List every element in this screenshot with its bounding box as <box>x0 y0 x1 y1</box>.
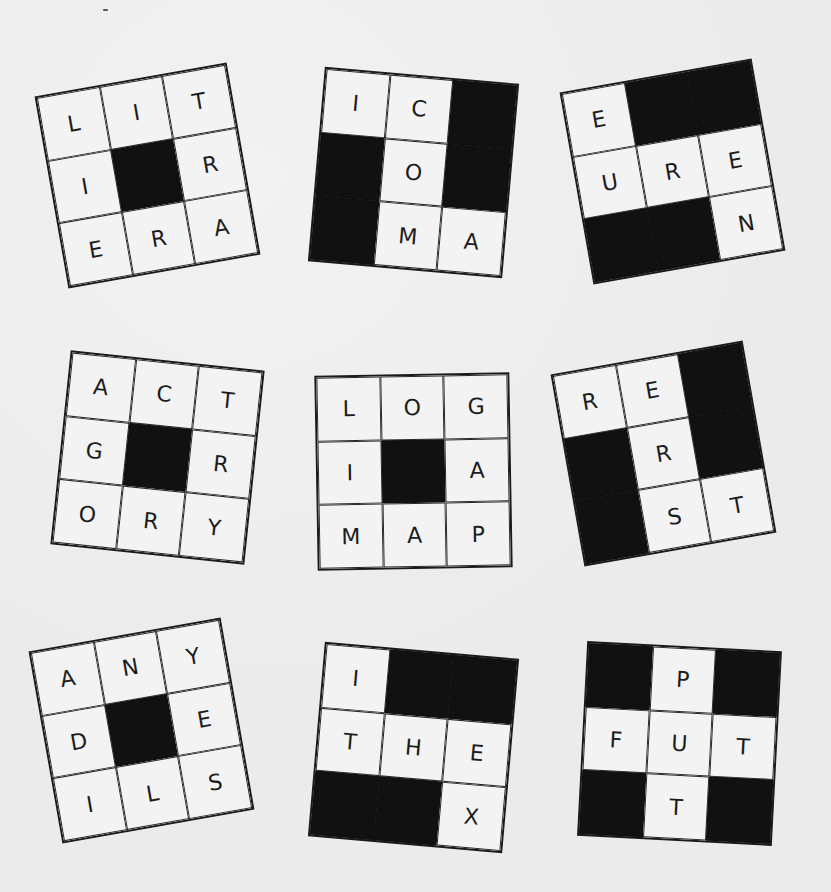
letter-cell: G <box>444 374 509 439</box>
letter-cell: L <box>316 377 381 442</box>
letter-cell: Y <box>179 492 249 562</box>
letter-cell: A <box>184 190 258 264</box>
letter-cell: I <box>321 69 390 138</box>
word-grid-7: ANYDEILS <box>29 618 255 844</box>
letter-cell: S <box>178 745 252 819</box>
letter-cell: A <box>437 207 506 276</box>
letter-cell: A <box>382 503 447 568</box>
letter-cell: R <box>636 135 710 209</box>
letter-cell: A <box>445 438 510 503</box>
letter-cell: H <box>379 713 448 782</box>
word-grid-9: PFUTT <box>577 641 782 846</box>
blocked-cell <box>448 80 517 149</box>
letter-cell: T <box>192 366 262 436</box>
blocked-cell <box>123 423 193 493</box>
blocked-cell <box>625 72 699 146</box>
word-grid-4: ACTGRORY <box>50 350 264 564</box>
letter-cell: O <box>379 138 448 207</box>
word-grid-8: ITHEX <box>308 642 519 853</box>
blocked-cell <box>586 643 653 710</box>
blocked-cell <box>310 771 379 840</box>
blocked-cell <box>385 650 454 719</box>
letter-cell: X <box>437 782 506 851</box>
letter-cell: T <box>162 65 236 139</box>
letter-cell: R <box>186 429 256 499</box>
blocked-cell <box>564 428 638 502</box>
letter-cell: A <box>31 642 105 716</box>
letter-cell: E <box>59 212 133 286</box>
letter-cell: C <box>385 75 454 144</box>
letter-cell: T <box>643 774 710 841</box>
blocked-cell <box>579 770 646 837</box>
blocked-cell <box>442 144 511 213</box>
blocked-cell <box>689 406 763 480</box>
letter-cell: E <box>616 354 690 428</box>
blocked-cell <box>706 777 773 844</box>
letter-cell: R <box>627 417 701 491</box>
blocked-cell <box>448 655 517 724</box>
letter-cell: T <box>710 713 777 780</box>
blocked-cell <box>584 208 658 282</box>
letter-cell: L <box>37 87 111 161</box>
letter-cell: A <box>66 353 136 423</box>
word-grid-2: ICOMA <box>308 67 519 278</box>
blocked-cell <box>647 197 721 271</box>
letter-cell: D <box>42 705 116 779</box>
letter-cell: R <box>553 365 627 439</box>
letter-cell: I <box>48 150 122 224</box>
puzzle-page: LITIRERA ICOMA EUREN ACTGRORY LOGIAMAP R… <box>0 0 831 892</box>
letter-cell: G <box>59 416 129 486</box>
letter-cell: R <box>116 486 186 556</box>
letter-cell: E <box>698 124 772 198</box>
blocked-cell <box>713 650 780 717</box>
blocked-cell <box>687 61 761 135</box>
letter-cell: E <box>442 719 511 788</box>
letter-cell: O <box>53 479 123 549</box>
letter-cell: R <box>122 201 196 275</box>
word-grid-1: LITIRERA <box>35 63 261 289</box>
blocked-cell <box>105 694 179 768</box>
letter-cell: P <box>446 502 511 567</box>
blocked-cell <box>381 439 446 504</box>
letter-cell: U <box>646 710 713 777</box>
print-speck <box>103 9 108 11</box>
letter-cell: Y <box>156 620 230 694</box>
letter-cell: I <box>317 440 382 505</box>
letter-cell: E <box>167 683 241 757</box>
letter-cell: I <box>100 76 174 150</box>
word-grid-3: EUREN <box>560 59 786 285</box>
letter-cell: T <box>700 468 774 542</box>
letter-cell: S <box>638 479 712 553</box>
letter-cell: N <box>94 631 168 705</box>
blocked-cell <box>111 139 185 213</box>
letter-cell: I <box>53 767 127 841</box>
letter-cell: C <box>129 359 199 429</box>
letter-cell: T <box>316 707 385 776</box>
letter-cell: U <box>573 146 647 220</box>
letter-cell: E <box>562 83 636 157</box>
letter-cell: R <box>173 128 247 202</box>
blocked-cell <box>575 490 649 564</box>
letter-cell: N <box>709 186 783 260</box>
letter-cell: M <box>319 504 384 569</box>
blocked-cell <box>310 196 379 265</box>
blocked-cell <box>678 343 752 417</box>
letter-cell: M <box>373 201 442 270</box>
word-grid-6: RERST <box>551 341 777 567</box>
letter-cell: F <box>582 707 649 774</box>
letter-cell: L <box>116 756 190 830</box>
word-grid-5: LOGIAMAP <box>314 372 512 570</box>
letter-cell: I <box>321 644 390 713</box>
blocked-cell <box>373 776 442 845</box>
blocked-cell <box>316 132 385 201</box>
letter-cell: O <box>380 375 445 440</box>
letter-cell: P <box>649 646 716 713</box>
